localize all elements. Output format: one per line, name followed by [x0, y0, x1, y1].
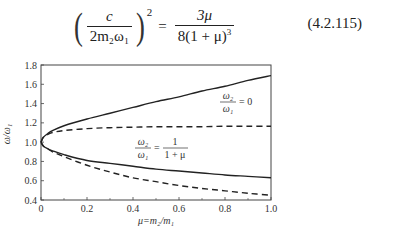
y-tick-label: 1.0: [25, 137, 38, 148]
chart: 00.20.40.60.81.00.40.60.81.01.21.41.61.8…: [0, 0, 398, 233]
annotation-2-equals: =: [154, 142, 160, 153]
y-tick-label: 1.8: [25, 60, 38, 71]
annotation-2-numerator: ω₂: [138, 136, 149, 147]
annotation-1-denominator: ω₁: [223, 103, 234, 114]
annotation-omega-zero: ω₂ ω₁ = 0: [220, 90, 252, 114]
x-tick-label: 1.0: [265, 203, 278, 214]
plot-frame: [41, 65, 271, 200]
y-tick-label: 1.4: [25, 98, 38, 109]
annotation-2-rhs-denominator: 1 + μ: [164, 149, 185, 160]
x-tick-label: 0.8: [219, 203, 232, 214]
curve-solid-0: [41, 76, 271, 143]
curve-dashed-2: [41, 126, 271, 142]
y-axis-label: ω/ω₁: [1, 124, 12, 144]
annotation-1-numerator: ω₂: [223, 90, 234, 101]
y-tick-label: 1.6: [25, 79, 38, 90]
y-tick-label: 0.4: [25, 195, 38, 206]
x-tick-label: 0.4: [127, 203, 140, 214]
annotation-2-rhs-numerator: 1: [173, 136, 178, 147]
y-tick-label: 0.8: [25, 156, 38, 167]
x-axis-label: μ=m₂/m₁: [137, 215, 174, 226]
annotation-1-rhs: = 0: [239, 96, 252, 107]
annotation-2-denominator: ω₁: [138, 149, 149, 160]
curves: [41, 76, 271, 196]
x-tick-label: 0.2: [81, 203, 94, 214]
y-tick-label: 0.6: [25, 175, 38, 186]
y-tick-label: 1.2: [25, 117, 38, 128]
x-tick-label: 0.6: [173, 203, 186, 214]
annotation-omega-ratio: ω₂ ω₁ = 1 1 + μ: [135, 136, 188, 160]
x-tick-label: 0: [39, 203, 44, 214]
